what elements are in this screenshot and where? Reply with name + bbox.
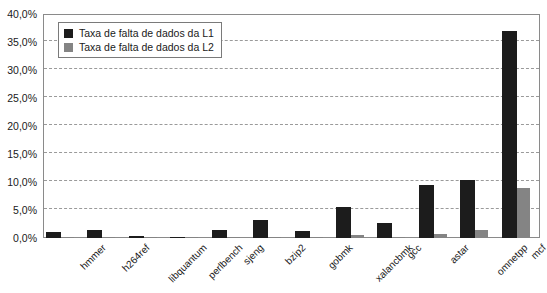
legend-item: Taxa de falta de dados da L1 bbox=[64, 26, 214, 40]
bar-group bbox=[250, 14, 291, 238]
y-tick-label: 20,0% bbox=[7, 121, 37, 132]
x-tick-label: omnetpp bbox=[494, 242, 529, 277]
legend-item: Taxa de falta de dados da L2 bbox=[64, 40, 214, 54]
y-tick-label: 5,0% bbox=[13, 205, 37, 216]
y-tick-label: 25,0% bbox=[7, 93, 37, 104]
y-tick-label: 30,0% bbox=[7, 65, 37, 76]
x-tick-label: gobmk bbox=[326, 242, 355, 271]
bar-group bbox=[333, 14, 374, 238]
bar-l2 bbox=[517, 188, 530, 238]
bar-l1 bbox=[460, 180, 475, 238]
y-tick-label: 0,0% bbox=[13, 233, 37, 244]
x-tick-label: perlbench bbox=[206, 242, 245, 281]
chart-legend: Taxa de falta de dados da L1Taxa de falt… bbox=[58, 22, 222, 58]
legend-swatch-l2 bbox=[64, 43, 73, 52]
bar-l1 bbox=[295, 231, 310, 238]
bar-group bbox=[499, 14, 540, 238]
y-axis: 0,0%5,0%10,0%15,0%20,0%25,0%30,0%35,0%40… bbox=[0, 14, 40, 238]
y-tick-label: 10,0% bbox=[7, 177, 37, 188]
x-tick-label: hmmer bbox=[78, 242, 108, 272]
bar-chart: 0,0%5,0%10,0%15,0%20,0%25,0%30,0%35,0%40… bbox=[0, 0, 547, 293]
y-tick-label: 15,0% bbox=[7, 149, 37, 160]
bar-l1 bbox=[336, 207, 351, 238]
bar-l1 bbox=[377, 223, 392, 238]
legend-label: Taxa de falta de dados da L1 bbox=[79, 27, 214, 39]
x-tick-label: mcf bbox=[529, 242, 547, 261]
bar-l1 bbox=[419, 185, 434, 238]
bar-group bbox=[416, 14, 457, 238]
x-tick-label: bzip2 bbox=[283, 242, 308, 267]
x-tick-label: libquantum bbox=[166, 242, 208, 284]
bar-l1 bbox=[87, 230, 102, 238]
x-axis: hmmerh264reflibquantumperlbenchsjengbzip… bbox=[43, 238, 540, 293]
x-tick-label: sjeng bbox=[241, 242, 266, 267]
bar-l2 bbox=[475, 230, 488, 238]
legend-label: Taxa de falta de dados da L2 bbox=[79, 41, 214, 53]
bar-group bbox=[374, 14, 415, 238]
x-tick-label: h264ref bbox=[120, 242, 152, 274]
y-tick-label: 40,0% bbox=[7, 9, 37, 20]
bar-group bbox=[292, 14, 333, 238]
bar-l1 bbox=[253, 220, 268, 238]
bar-l1 bbox=[212, 230, 227, 238]
legend-swatch-l1 bbox=[64, 29, 73, 38]
bar-l1 bbox=[502, 31, 517, 238]
bar-group bbox=[457, 14, 498, 238]
y-tick-label: 35,0% bbox=[7, 37, 37, 48]
x-tick-label: astar bbox=[448, 242, 472, 266]
